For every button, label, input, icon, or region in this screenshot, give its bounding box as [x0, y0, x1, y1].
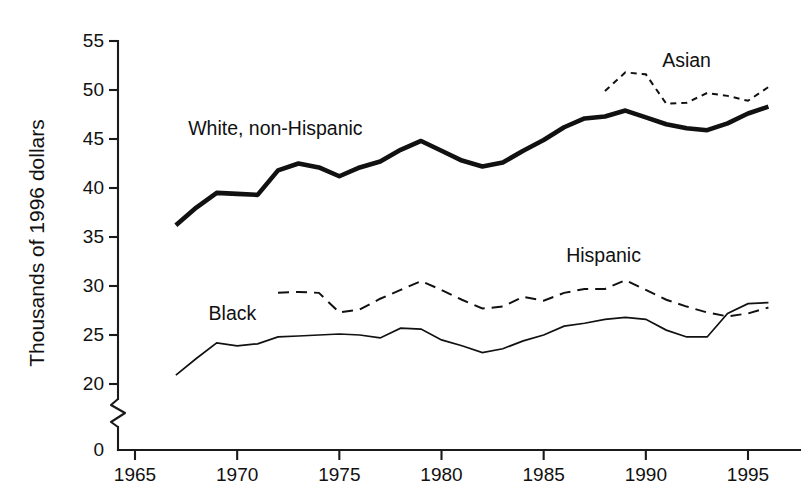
- y-tick-label: 20: [83, 373, 104, 394]
- y-axis-title-text: Thousands of 1996 dollars: [25, 119, 48, 367]
- chart-container: 2025303540455055019651970197519801985199…: [0, 0, 811, 498]
- series-label-hispanic: Hispanic: [566, 244, 641, 266]
- x-tick-label: 1980: [420, 464, 462, 485]
- y-tick-label: 30: [83, 275, 104, 296]
- tick-labels: 2025303540455055019651970197519801985199…: [83, 30, 769, 485]
- x-tick-label: 1965: [114, 464, 156, 485]
- x-tick-label: 1985: [523, 464, 565, 485]
- y-axis-title: Thousands of 1996 dollars: [25, 119, 48, 367]
- y-tick-label: 35: [83, 226, 104, 247]
- y-axis-break-icon: [111, 399, 125, 427]
- axes: [109, 41, 800, 460]
- x-tick-label: 1975: [318, 464, 360, 485]
- series-line-asian: [605, 72, 768, 103]
- series-line-hispanic: [278, 280, 768, 316]
- x-tick-label: 1970: [216, 464, 258, 485]
- x-tick-label: 1995: [727, 464, 769, 485]
- y-tick-label: 45: [83, 128, 104, 149]
- series-line-black: [176, 303, 769, 376]
- line-chart: 2025303540455055019651970197519801985199…: [0, 0, 811, 498]
- y-tick-label: 50: [83, 79, 104, 100]
- series-label-white-non-hispanic: White, non-Hispanic: [188, 117, 363, 139]
- x-tick-label: 1990: [625, 464, 667, 485]
- y-tick-label: 55: [83, 30, 104, 51]
- y-tick-label: 25: [83, 324, 104, 345]
- y-tick-label-zero: 0: [93, 439, 104, 460]
- y-tick-label: 40: [83, 177, 104, 198]
- series-label-asian: Asian: [662, 49, 711, 71]
- series-label-black: Black: [209, 302, 257, 324]
